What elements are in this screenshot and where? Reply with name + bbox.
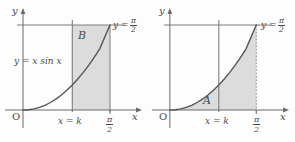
right-panel: y x O y = π 2 A x = k π 2: [147, 0, 294, 142]
origin-label: O: [12, 112, 20, 122]
label-x-equals-k: x = k: [58, 117, 82, 126]
tick-fraction-numerator: π: [253, 116, 260, 126]
x-tick-label-pi-over-2: π 2: [253, 116, 260, 134]
y-axis-label: y: [12, 6, 18, 16]
x-axis-label: x: [132, 112, 138, 122]
x-axis-label: x: [280, 112, 286, 122]
label-y-equals-pi-over-2: y = π 2: [261, 17, 285, 34]
fraction-denominator: 2: [130, 26, 137, 34]
left-panel: y x O y = π 2 B y = x sin x x = k π 2: [0, 0, 147, 142]
tick-pi-over-two-fraction: π 2: [253, 116, 260, 134]
region-label-a: A: [203, 95, 211, 106]
y-axis-arrow: [167, 8, 172, 14]
label-y-equals-pi-over-2: y = π 2: [113, 17, 137, 34]
tick-fraction-denominator: 2: [106, 125, 113, 134]
tick-fraction-denominator: 2: [253, 125, 260, 134]
tick-pi-over-two-fraction: π 2: [106, 116, 113, 134]
label-y-equals-lead: y =: [261, 21, 277, 30]
y-axis-label: y: [159, 6, 165, 16]
x-tick-label-pi-over-2: π 2: [106, 116, 113, 134]
label-y-equals-lead: y =: [113, 21, 129, 30]
fraction-denominator: 2: [278, 26, 285, 34]
tick-fraction-numerator: π: [106, 116, 113, 126]
origin-label: O: [159, 112, 167, 122]
pi-over-two-fraction: π 2: [130, 17, 137, 34]
curve-equation-label: y = x sin x: [14, 57, 62, 66]
y-axis-arrow: [21, 8, 26, 14]
region-a-fill: [170, 25, 256, 110]
figure-container: y x O y = π 2 B y = x sin x x = k π 2: [0, 0, 295, 142]
region-label-b: B: [78, 30, 86, 41]
label-x-equals-k: x = k: [205, 117, 229, 126]
pi-over-two-fraction: π 2: [278, 17, 285, 34]
